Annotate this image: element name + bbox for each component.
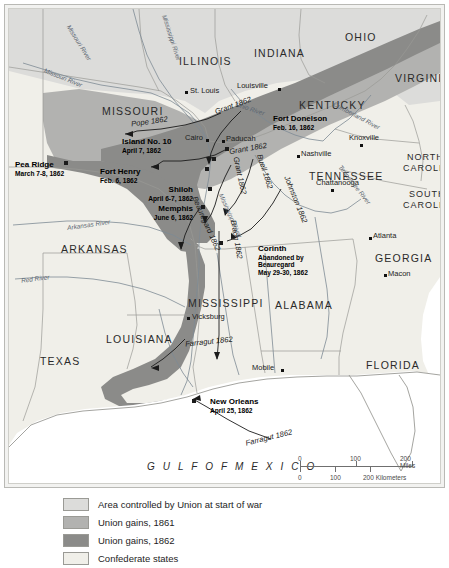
- state-label-illinois: ILLINOIS: [179, 55, 232, 67]
- battle-name-memphis: Memphis: [113, 205, 193, 214]
- legend-swatch-union-start: [63, 498, 89, 511]
- battle-date-island-no-10: April 7, 1862: [122, 147, 171, 154]
- battle-label-fort-donelson: Fort Donelson Feb. 16, 1862: [273, 115, 327, 131]
- corinth-line-4: May 29-30, 1862: [258, 269, 308, 276]
- map-legend: Area controlled by Union at start of war…: [63, 495, 383, 567]
- city-label-atlanta: Atlanta: [373, 231, 396, 240]
- battle-name-pea-ridge: Pea Ridge: [15, 161, 64, 170]
- state-label-ohio: OHIO: [345, 31, 377, 43]
- city-dot-louisville: [278, 88, 281, 91]
- scale-label-miles-100: 100: [350, 455, 361, 462]
- city-label-mobile: Mobile: [252, 363, 274, 372]
- legend-label-union-start: Area controlled by Union at start of war: [98, 499, 262, 510]
- state-label-mississippi: MISSISSIPPI: [188, 297, 264, 309]
- battle-date-memphis: June 6, 1862: [113, 214, 193, 221]
- scale-tick-km-100: [335, 466, 336, 472]
- ocean-label-gulf-of-mexico: G U L F O F M E X I C O: [147, 461, 317, 472]
- battle-date-fort-henry: Feb. 6, 1862: [100, 177, 140, 184]
- battle-name-new-orleans: New Orleans: [210, 398, 258, 407]
- city-dot-vicksburg: [187, 317, 190, 320]
- city-label-st-louis: St. Louis: [190, 86, 219, 95]
- battle-date-pea-ridge: March 7-8, 1862: [15, 170, 64, 177]
- state-label-georgia: GEORGIA: [375, 252, 432, 264]
- battle-label-memphis: Memphis June 6, 1862: [113, 205, 193, 221]
- legend-row-union-1861: Union gains, 1861: [63, 513, 383, 531]
- battle-label-island-no-10: Island No. 10 April 7, 1862: [122, 138, 171, 154]
- battle-label-fort-henry: Fort Henry Feb. 6, 1862: [100, 168, 140, 184]
- city-dot-knoxville: [360, 144, 363, 147]
- city-label-louisville: Louisville: [237, 81, 268, 90]
- legend-row-union-1862: Union gains, 1862: [63, 531, 383, 549]
- city-label-knoxville: Knoxville: [349, 133, 379, 142]
- state-label-alabama: ALABAMA: [275, 299, 333, 311]
- battle-name-fort-henry: Fort Henry: [100, 168, 140, 177]
- battle-date-shiloh: April 6-7, 1862: [113, 195, 193, 202]
- scale-label-km-100: 100: [330, 474, 341, 481]
- state-label-virginia: VIRGINIA: [395, 72, 441, 84]
- map-page: ILLINOIS INDIANA OHIO VIRGINIA KENTUCKY …: [0, 0, 449, 568]
- city-dot-atlanta: [369, 237, 372, 240]
- city-label-macon: Macon: [388, 269, 411, 278]
- map-frame: ILLINOIS INDIANA OHIO VIRGINIA KENTUCKY …: [4, 4, 445, 488]
- battle-label-corinth: Corinth Abandoned by Beauregard May 29-3…: [258, 245, 308, 276]
- state-label-north-carolina-1: NORTH: [407, 152, 441, 162]
- city-dot-cairo: [206, 139, 209, 142]
- scale-bar: 0 100 200 Miles 0 100 200 Kilometers: [300, 455, 418, 487]
- battle-label-shiloh: Shiloh April 6-7, 1862: [113, 186, 193, 202]
- battle-name-fort-donelson: Fort Donelson: [273, 115, 327, 124]
- state-label-louisiana: LOUISIANA: [106, 333, 173, 345]
- map-canvas[interactable]: ILLINOIS INDIANA OHIO VIRGINIA KENTUCKY …: [8, 8, 441, 484]
- battle-name-island-no-10: Island No. 10: [122, 138, 171, 147]
- scale-label-km-0: 0: [298, 474, 302, 481]
- battle-label-pea-ridge: Pea Ridge March 7-8, 1862: [15, 161, 64, 177]
- scale-tick-km-200: [370, 466, 371, 472]
- legend-swatch-confederate: [63, 552, 89, 565]
- legend-swatch-union-1861: [63, 516, 89, 529]
- state-label-south-carolina-2: CAROLINA: [403, 200, 441, 210]
- city-dot-chattanooga: [331, 189, 334, 192]
- city-dot-macon: [384, 274, 387, 277]
- scale-label-miles-200: 200 Miles: [400, 455, 418, 469]
- scale-label-km-200: 200 Kilometers: [363, 474, 406, 481]
- city-label-cairo: Cairo: [185, 133, 203, 142]
- battle-name-shiloh: Shiloh: [113, 186, 193, 195]
- legend-label-confederate: Confederate states: [98, 553, 178, 564]
- scale-tick-km-0: [300, 466, 301, 472]
- state-label-south-carolina-1: SOUTH: [409, 189, 441, 199]
- city-label-vicksburg: Vicksburg: [192, 312, 225, 321]
- legend-row-union-start: Area controlled by Union at start of war: [63, 495, 383, 513]
- battle-date-fort-donelson: Feb. 16, 1862: [273, 124, 327, 131]
- scale-label-miles-0: 0: [298, 455, 302, 462]
- city-dot-st-louis: [185, 91, 188, 94]
- city-dot-nashville: [297, 155, 300, 158]
- city-label-paducah: Paducah: [226, 134, 256, 143]
- legend-label-union-1862: Union gains, 1862: [98, 535, 175, 546]
- legend-label-union-1861: Union gains, 1861: [98, 517, 175, 528]
- legend-row-confederate: Confederate states: [63, 549, 383, 567]
- battle-date-new-orleans: April 25, 1862: [210, 407, 258, 414]
- corinth-line-1: Corinth: [258, 245, 308, 254]
- city-dot-mobile: [281, 369, 284, 372]
- state-label-indiana: INDIANA: [254, 47, 305, 59]
- legend-swatch-union-1862: [63, 534, 89, 547]
- state-label-north-carolina-2: CAROLINA: [403, 163, 441, 173]
- state-label-arkansas: ARKANSAS: [61, 243, 128, 255]
- city-label-nashville: Nashville: [301, 149, 331, 158]
- state-label-florida: FLORIDA: [366, 359, 420, 371]
- state-label-texas: TEXAS: [40, 355, 80, 367]
- city-dot-paducah: [222, 140, 225, 143]
- corinth-line-3: Beauregard: [258, 261, 308, 268]
- corinth-line-2: Abandoned by: [258, 254, 308, 261]
- battle-label-new-orleans: New Orleans April 25, 1862: [210, 398, 258, 414]
